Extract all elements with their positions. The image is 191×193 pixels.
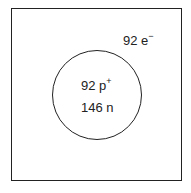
- nucleus-circle: [52, 50, 142, 140]
- proton-label: 92 p+: [81, 79, 112, 92]
- electron-label: 92 e−: [123, 34, 154, 47]
- neutron-label: 146 n: [81, 101, 114, 114]
